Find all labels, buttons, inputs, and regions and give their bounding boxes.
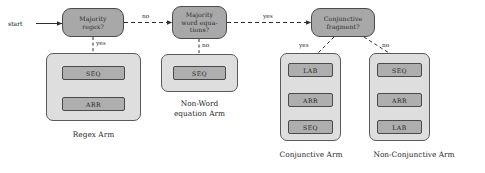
edge-label-conjunctive-no: no bbox=[382, 42, 389, 48]
op-box-regex-seq-label: SEQ bbox=[86, 70, 101, 77]
op-box-nonconjunctive-lab-label: LAB bbox=[392, 124, 406, 131]
op-box-nonconjunctive-arr[interactable]: ARR bbox=[377, 93, 422, 107]
flowchart-diagram: start Majority regex? Majority word equa… bbox=[0, 0, 485, 173]
op-box-conjunctive-seq[interactable]: SEQ bbox=[288, 120, 333, 134]
op-box-nonword-seq[interactable]: SEQ bbox=[173, 66, 226, 80]
op-box-nonword-seq-label: SEQ bbox=[192, 70, 207, 77]
decision-conjunctive-fragment-label: Conjunctive fragment? bbox=[324, 15, 363, 31]
op-box-conjunctive-lab-label: LAB bbox=[303, 67, 317, 74]
op-box-nonconjunctive-seq[interactable]: SEQ bbox=[377, 63, 422, 77]
decision-majority-word-equations[interactable]: Majority word equa- tions? bbox=[172, 6, 227, 39]
decision-conjunctive-fragment[interactable]: Conjunctive fragment? bbox=[311, 8, 375, 37]
op-box-conjunctive-arr[interactable]: ARR bbox=[288, 93, 333, 107]
op-box-regex-arr[interactable]: ARR bbox=[62, 97, 125, 111]
decision-majority-regex[interactable]: Majority regex? bbox=[62, 8, 124, 37]
edge-label-wordeq-yes: yes bbox=[263, 13, 273, 19]
edge-conjunctive-yes bbox=[318, 37, 334, 53]
edge-label-conjunctive-yes: yes bbox=[299, 42, 309, 48]
op-box-nonconjunctive-seq-label: SEQ bbox=[392, 67, 407, 74]
decision-majority-word-equations-label: Majority word equa- tions? bbox=[181, 11, 217, 35]
op-box-conjunctive-lab[interactable]: LAB bbox=[288, 63, 333, 77]
edge-label-regex-no: no bbox=[142, 13, 149, 19]
arm-caption-regex-arm: Regex Arm bbox=[46, 130, 141, 140]
edge-label-wordeq-no: no bbox=[202, 42, 209, 48]
op-box-nonconjunctive-lab[interactable]: LAB bbox=[377, 120, 422, 134]
op-box-regex-arr-label: ARR bbox=[86, 101, 101, 108]
start-label: start bbox=[8, 20, 23, 27]
op-box-conjunctive-arr-label: ARR bbox=[303, 97, 318, 104]
arm-caption-non-word-equation-arm: Non-Word equation Arm bbox=[152, 99, 247, 118]
op-box-nonconjunctive-arr-label: ARR bbox=[392, 97, 407, 104]
arm-caption-non-conjunctive-arm: Non-Conjunctive Arm bbox=[359, 150, 469, 160]
arm-caption-conjunctive-arm: Conjunctive Arm bbox=[266, 150, 356, 160]
op-box-conjunctive-seq-label: SEQ bbox=[303, 124, 318, 131]
op-box-regex-seq[interactable]: SEQ bbox=[62, 66, 125, 80]
edge-label-regex-yes: yes bbox=[96, 40, 106, 46]
decision-majority-regex-label: Majority regex? bbox=[79, 15, 106, 31]
